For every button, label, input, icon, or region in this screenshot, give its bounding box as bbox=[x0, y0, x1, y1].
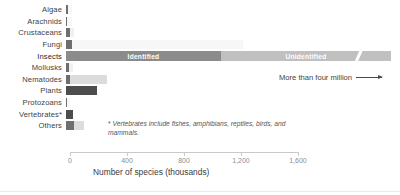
x-axis-title: Number of species (thousands) bbox=[93, 167, 209, 177]
table-row: Protozoans bbox=[0, 97, 400, 109]
bar-segment-unidentified bbox=[74, 121, 84, 130]
bar-segment-unidentified bbox=[68, 5, 72, 14]
series-label-identified: Identified bbox=[66, 51, 221, 61]
divider bbox=[0, 191, 400, 192]
footnote-marker: * bbox=[108, 120, 111, 127]
bar-area-protozoans bbox=[66, 97, 400, 109]
bar-area-algae bbox=[66, 4, 400, 16]
table-row: Mollusks bbox=[0, 62, 400, 74]
annotation-more-than-four-million: More than four million bbox=[279, 73, 382, 82]
chart-rows: Algae Arachnids Crustaceans bbox=[0, 4, 400, 132]
bar-segment-unidentified bbox=[70, 75, 107, 84]
bar-segment-identified bbox=[66, 86, 97, 95]
table-row: Algae bbox=[0, 4, 400, 16]
axis-tick bbox=[127, 152, 128, 156]
axis-tick bbox=[241, 152, 242, 156]
axis-tick bbox=[184, 152, 185, 156]
species-bar-chart: Algae Arachnids Crustaceans bbox=[0, 0, 400, 195]
bar-area-fungi bbox=[66, 39, 400, 51]
axis-tick bbox=[70, 152, 71, 156]
footnote-text: Vertebrates include fishes, amphibians, … bbox=[108, 120, 285, 136]
table-row: Arachnids bbox=[0, 16, 400, 28]
axis-tick-label: 800 bbox=[178, 157, 190, 164]
bar-crustaceans bbox=[66, 28, 74, 37]
table-row: Vertebrates* bbox=[0, 108, 400, 120]
arrow-right-icon bbox=[356, 77, 382, 78]
bar-segment-unidentified bbox=[67, 98, 70, 107]
bar-segment-unidentified bbox=[70, 28, 74, 37]
bar-nematodes bbox=[66, 75, 107, 84]
category-label-others: Others bbox=[0, 121, 66, 130]
axis-tick-label: 400 bbox=[121, 157, 133, 164]
bar-area-crustaceans bbox=[66, 27, 400, 39]
category-label-fungi: Fungi bbox=[0, 40, 66, 49]
annotation-text: More than four million bbox=[279, 73, 352, 82]
bar-segment-identified bbox=[66, 110, 73, 119]
bar-plants bbox=[66, 86, 97, 95]
axis-tick-label: 0 bbox=[68, 157, 72, 164]
bar-area-arachnids bbox=[66, 16, 400, 28]
axis-tick-label: 1,200 bbox=[232, 157, 250, 164]
bar-area-vertebrates bbox=[66, 108, 400, 120]
bar-arachnids bbox=[66, 17, 72, 26]
footnote: * Vertebrates include fishes, amphibians… bbox=[108, 120, 288, 137]
bar-others bbox=[66, 121, 84, 130]
bar-mollusks bbox=[66, 63, 73, 72]
category-label-arachnids: Arachnids bbox=[0, 17, 66, 26]
bar-segment-unidentified bbox=[72, 40, 243, 49]
series-label-unidentified: Unidentified bbox=[221, 51, 391, 61]
bar-vertebrates bbox=[66, 110, 73, 119]
bar-area-insects: Identified Unidentified bbox=[66, 50, 400, 62]
bar-segment-unidentified: Unidentified bbox=[221, 51, 391, 61]
bar-area-mollusks bbox=[66, 62, 400, 74]
bar-segment-unidentified bbox=[69, 63, 73, 72]
axis-tick bbox=[298, 152, 299, 156]
category-label-vertebrates: Vertebrates* bbox=[0, 110, 66, 119]
axis-tick-label: 1,600 bbox=[289, 157, 307, 164]
bar-segment-identified: Identified bbox=[66, 51, 221, 61]
table-row: Fungi bbox=[0, 39, 400, 51]
bar-insects: Identified Unidentified bbox=[66, 51, 391, 61]
bar-protozoans bbox=[66, 98, 70, 107]
bar-algae bbox=[66, 5, 72, 14]
category-label-crustaceans: Crustaceans bbox=[0, 28, 66, 37]
bar-segment-unidentified bbox=[67, 17, 71, 26]
table-row: Plants bbox=[0, 85, 400, 97]
bar-segment-identified bbox=[66, 121, 74, 130]
category-label-algae: Algae bbox=[0, 5, 66, 14]
bar-fungi bbox=[66, 40, 243, 49]
table-row: Insects Identified Unidentified bbox=[0, 50, 400, 62]
category-label-insects: Insects bbox=[0, 52, 66, 61]
bar-area-plants bbox=[66, 85, 400, 97]
table-row: Crustaceans bbox=[0, 27, 400, 39]
category-label-nematodes: Nematodes bbox=[0, 75, 66, 84]
category-label-protozoans: Protozoans bbox=[0, 98, 66, 107]
category-label-mollusks: Mollusks bbox=[0, 63, 66, 72]
category-label-plants: Plants bbox=[0, 86, 66, 95]
x-axis: 0 400 800 1,200 1,600 Number of species … bbox=[0, 152, 400, 192]
